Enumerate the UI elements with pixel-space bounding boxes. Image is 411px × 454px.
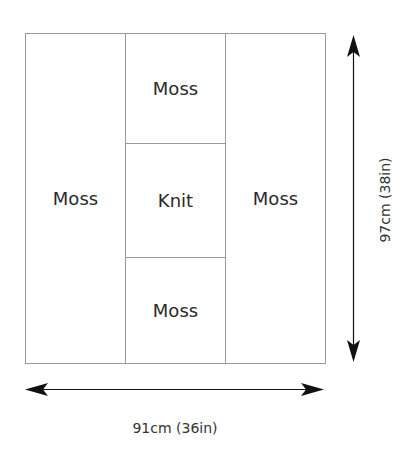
height-dimension-label: 97cm (38in) (377, 157, 393, 242)
width-dimension-label: 91cm (36in) (132, 420, 217, 436)
vertical-arrow-icon (347, 35, 360, 362)
horizontal-arrow-icon (25, 383, 324, 396)
dimension-arrows (0, 0, 411, 454)
